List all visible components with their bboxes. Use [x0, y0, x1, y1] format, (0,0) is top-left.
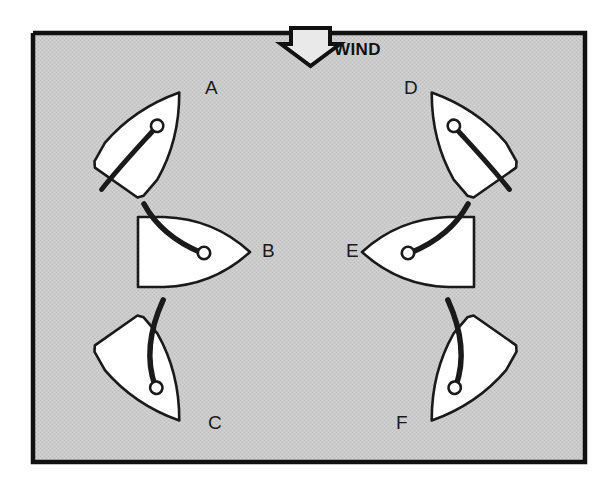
boat-label-e: E	[346, 240, 359, 261]
boat-label-b: B	[262, 240, 275, 261]
mast-circle-e	[402, 247, 414, 259]
figure-root: WIND A B C D	[0, 0, 610, 482]
points-of-sail-diagram: WIND A B C D	[0, 0, 610, 482]
boat-label-a: A	[205, 77, 218, 98]
mast-circle-b	[198, 247, 210, 259]
boat-label-c: C	[208, 412, 222, 433]
wind-label: WIND	[334, 40, 381, 59]
boat-label-f: F	[396, 412, 408, 433]
boat-label-d: D	[404, 77, 418, 98]
diagram-frame	[33, 33, 585, 462]
